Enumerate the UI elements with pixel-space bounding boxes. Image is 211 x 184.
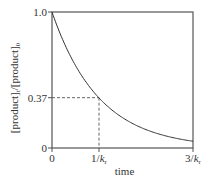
x-tick-label: 0	[49, 152, 55, 164]
y-tick-label: 0	[42, 142, 48, 154]
decay-curve	[52, 12, 193, 141]
decay-chart: 00.371.001/kr3/kr time [product]t/[produ…	[0, 0, 211, 184]
plot-frame	[52, 12, 193, 148]
y-tick-label: 0.37	[28, 92, 48, 104]
y-tick-label: 1.0	[33, 6, 47, 18]
x-tick-label: 1/kr	[91, 152, 107, 166]
y-axis-label: [product]t/[product]0	[8, 42, 22, 133]
x-tick-label: 3/kr	[185, 152, 201, 166]
x-axis-label: time	[115, 165, 135, 177]
